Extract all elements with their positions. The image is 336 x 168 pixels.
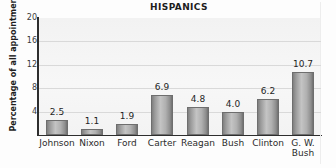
- bar: [116, 124, 138, 135]
- y-tick-label: 4: [3, 108, 37, 116]
- y-axis-ticks: 20161284: [0, 0, 37, 168]
- bar-value-label: 10.7: [283, 60, 323, 69]
- bar: [151, 95, 173, 135]
- x-tick-label: G. W.Bush: [279, 138, 327, 158]
- y-axis-line: [37, 17, 39, 136]
- bar: [222, 112, 244, 135]
- bar-value-label: 6.2: [248, 87, 288, 96]
- y-tick-label: 8: [3, 84, 37, 92]
- bar: [292, 72, 314, 135]
- bar-value-label: 1.1: [72, 117, 112, 126]
- bar: [187, 107, 209, 135]
- gridline: [39, 41, 321, 42]
- bar: [46, 120, 68, 135]
- x-tick-label-line: Bush: [279, 148, 327, 158]
- gridline: [39, 65, 321, 66]
- bar-chart: HISPANICS Percentage of all appointments…: [0, 0, 336, 168]
- bar-value-label: 1.9: [107, 112, 147, 121]
- x-axis-line: [37, 135, 322, 136]
- bar: [257, 99, 279, 135]
- bar-value-label: 2.5: [37, 108, 77, 117]
- bar-value-label: 6.9: [142, 83, 182, 92]
- bar: [81, 129, 103, 135]
- bar-value-label: 4.0: [213, 100, 253, 109]
- y-tick-label: 20: [3, 14, 37, 22]
- bar-value-label: 4.8: [178, 95, 218, 104]
- y-tick-label: 12: [3, 61, 37, 69]
- y-tick-label: 16: [3, 37, 37, 45]
- x-tick-label-line: G. W.: [279, 138, 327, 148]
- chart-title: HISPANICS: [38, 2, 320, 12]
